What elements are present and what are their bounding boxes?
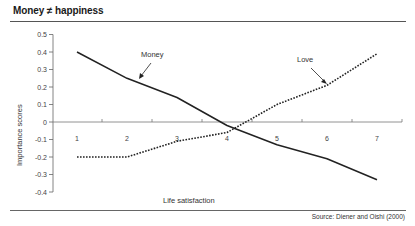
x-tick-label: 5 (275, 135, 279, 142)
love-arrow-icon (311, 68, 324, 81)
y-tick-label: 0.5 (37, 31, 47, 38)
source-note: Source: Diener and Oishi (2000) (312, 213, 405, 220)
y-tick-label: 0.2 (37, 84, 47, 91)
x-tick-label: 1 (75, 135, 79, 142)
y-tick-label: -0.1 (35, 136, 47, 143)
line-chart: 0.50.40.30.20.10-0.1-0.2-0.3-0.4 1234567… (0, 0, 415, 226)
x-tick-label: 6 (325, 135, 329, 142)
y-tick-label: 0.1 (37, 101, 47, 108)
y-tick-label: 0.4 (37, 49, 47, 56)
money-arrow-icon (141, 63, 151, 76)
y-axis: 0.50.40.30.20.10-0.1-0.2-0.3-0.4 (35, 31, 53, 196)
money-label: Money (141, 50, 164, 59)
x-tick-label: 2 (125, 135, 129, 142)
y-tick-label: 0 (43, 119, 47, 126)
x-axis-title: Life satisfaction (163, 196, 215, 205)
money-arrowhead-icon (139, 73, 144, 79)
x-tick-label: 7 (375, 135, 379, 142)
love-arrowhead-icon (321, 79, 327, 84)
y-tick-label: -0.2 (35, 154, 47, 161)
y-axis-title: Importance scores (15, 104, 24, 166)
x-axis: 1234567 (53, 119, 402, 142)
footer-rule (10, 210, 406, 211)
series-lines (77, 52, 377, 180)
y-tick-label: -0.3 (35, 171, 47, 178)
series-money-line (77, 52, 377, 180)
y-tick-label: -0.4 (35, 189, 47, 196)
x-tick-label: 4 (225, 135, 229, 142)
love-annotation: Love (297, 55, 327, 84)
money-annotation: Money (139, 50, 164, 79)
y-tick-label: 0.3 (37, 66, 47, 73)
love-label: Love (297, 55, 313, 64)
